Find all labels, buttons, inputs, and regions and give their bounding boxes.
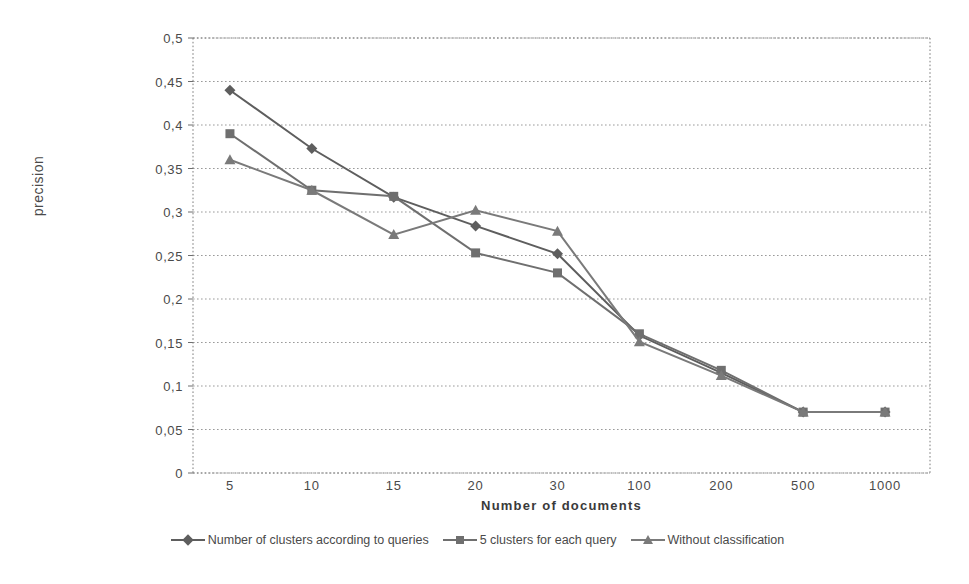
y-tick-label: 0,2 [63,292,183,307]
y-tick-label: 0,25 [63,248,183,263]
y-tick-label: 0,35 [63,161,183,176]
legend-entry: Without classification [631,533,785,547]
y-tick-label: 0,4 [63,118,183,133]
legend-label: Number of clusters according to queries [208,533,429,547]
diamond-marker [470,220,481,231]
series-line [230,160,885,412]
y-tick-label: 0,15 [63,335,183,350]
legend-entry: Number of clusters according to queries [171,533,429,547]
y-tick-label: 0,1 [63,379,183,394]
y-axis-tick-labels: 00,050,10,150,20,250,30,350,40,450,5 [63,0,183,584]
legend-label: Without classification [668,533,785,547]
diamond-legend-icon [171,533,205,547]
y-tick-label: 0,05 [63,422,183,437]
x-tick-label: 20 [468,478,484,493]
y-tick-label: 0 [63,466,183,481]
x-tick-label: 15 [386,478,402,493]
triangle-marker [224,154,235,164]
x-tick-label: 10 [304,478,320,493]
y-tick-label: 0,45 [63,74,183,89]
square-marker [471,248,480,257]
square-legend-icon [443,533,477,547]
triangle-marker [470,205,481,215]
x-tick-label: 100 [627,478,651,493]
x-tick-label: 200 [709,478,733,493]
triangle-legend-icon [631,533,665,547]
square-marker [389,192,398,201]
series-layer [224,85,890,418]
x-tick-label: 1000 [869,478,901,493]
square-marker [553,268,562,277]
y-tick-label: 0,3 [63,205,183,220]
x-tick-label: 30 [549,478,565,493]
legend-label: 5 clusters for each query [480,533,617,547]
precision-line-chart: precision 00,050,10,150,20,250,30,350,40… [0,0,969,584]
legend-entry: 5 clusters for each query [443,533,617,547]
y-axis-title: precision [30,106,46,266]
x-tick-label: 500 [791,478,815,493]
x-axis-title: Number of documents [193,498,930,513]
square-marker [225,129,234,138]
x-tick-label: 5 [226,478,234,493]
chart-legend: Number of clusters according to queries5… [0,533,969,547]
y-tick-label: 0,5 [63,31,183,46]
